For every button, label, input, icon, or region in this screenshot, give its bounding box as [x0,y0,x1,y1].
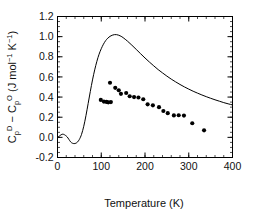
chart-plot: 0100200300400 -0.20.00.20.40.60.81.01.2 … [0,0,263,219]
y-tick-label: 0.0 [39,131,54,143]
data-point [108,81,112,85]
data-point [117,88,121,92]
data-point [172,113,176,117]
x-axis-title: Temperature (K) [104,197,183,209]
data-point [146,102,150,106]
data-point [109,100,113,104]
y-tick-label: 0.8 [39,50,54,62]
data-point [132,95,136,99]
y-tick-label: 1.2 [39,10,54,22]
data-point [124,91,128,95]
data-point [141,97,145,101]
figure-container: 0100200300400 -0.20.00.20.40.60.81.01.2 … [0,0,263,219]
data-point [177,113,181,117]
x-tick-label: 400 [224,160,242,172]
data-point [190,121,194,125]
data-point [202,128,206,132]
x-tick-label: 200 [136,160,154,172]
x-tick-label: 0 [55,160,61,172]
data-point [161,109,165,113]
data-point [151,103,155,107]
data-point [136,95,140,99]
data-point [128,94,132,98]
y-tick-label: 1.0 [39,30,54,42]
data-point [113,86,117,90]
y-tick-label: -0.2 [35,151,53,163]
y-tick-label: 0.6 [39,71,54,83]
x-tick-label: 100 [92,160,110,172]
y-tick-label: 0.2 [39,111,54,123]
y-tick-label: 0.4 [39,91,54,103]
data-point [182,114,186,118]
data-point [166,111,170,115]
data-point [119,92,123,96]
x-tick-label: 300 [180,160,198,172]
data-point [157,105,161,109]
